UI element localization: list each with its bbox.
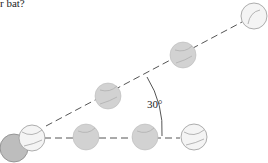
deflected-path-line — [46, 22, 242, 126]
baseball-ghost-icon — [73, 124, 99, 150]
baseball-icon — [181, 124, 207, 150]
baseball-icon — [241, 3, 267, 29]
angle-label: 30° — [147, 98, 162, 110]
baseball-trajectory-diagram — [0, 0, 268, 163]
diagram: r bat? — [0, 0, 268, 163]
baseball-ghost-icon — [132, 124, 158, 150]
baseball-icon — [19, 125, 45, 151]
baseball-ghost-icon — [170, 42, 196, 68]
baseball-ghost-icon — [95, 83, 121, 109]
